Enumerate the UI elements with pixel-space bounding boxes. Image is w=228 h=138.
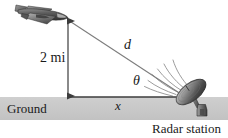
horizontal-distance-label: x <box>115 99 121 112</box>
radar-station-diagram: 2 mi d θ Ground x Radar station <box>0 0 228 138</box>
altitude-label: 2 mi <box>40 51 65 65</box>
radar-station-label: Radar station <box>152 122 221 135</box>
ground-label: Ground <box>7 102 47 115</box>
airplane-icon <box>15 5 68 24</box>
diagram-canvas <box>0 0 228 138</box>
hypotenuse-label: d <box>124 38 131 52</box>
angle-theta-label: θ <box>133 74 140 88</box>
hypotenuse-line <box>68 20 187 98</box>
